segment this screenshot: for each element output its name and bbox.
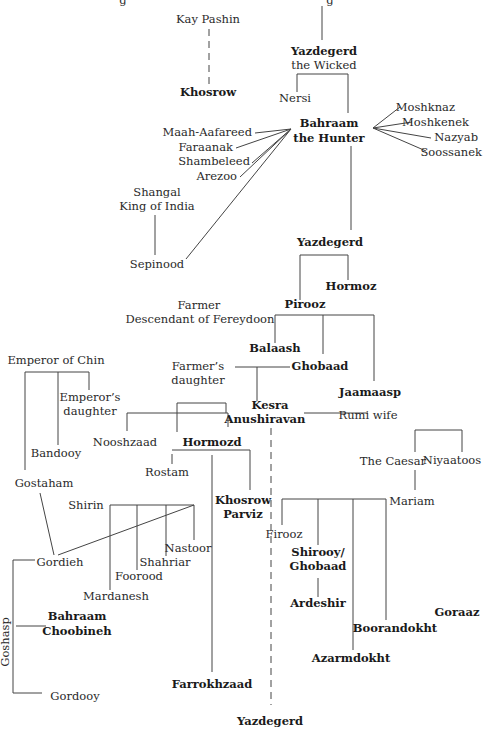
person-label-kesra: Kesra xyxy=(251,398,289,412)
person-label-khosrow-parviz-2: Parviz xyxy=(223,507,263,521)
person-label-ghobaad: Ghobaad xyxy=(292,359,349,373)
connector-line xyxy=(25,372,89,390)
person-label-moshkenek: Moshkenek xyxy=(402,115,470,129)
person-label-firooz: Firooz xyxy=(265,527,302,541)
person-label-goshasp: Goshasp xyxy=(0,617,12,667)
person-label-farrokhzaad: Farrokhzaad xyxy=(172,677,253,691)
person-label-gordieh: Gordieh xyxy=(37,555,84,569)
person-label-shahriar: Shahriar xyxy=(139,555,191,569)
person-label-the-caesar: The Caesar xyxy=(360,454,427,468)
person-label-shangal-title: King of India xyxy=(119,199,195,213)
person-label-balaash: Balaash xyxy=(249,341,301,355)
person-label-gostaham: Gostaham xyxy=(15,476,74,490)
person-label-emperors-daughter: Emperor’s xyxy=(60,390,121,404)
person-label-goraaz: Goraaz xyxy=(435,605,480,619)
person-label-gordooy: Gordooy xyxy=(50,689,100,703)
person-label-hormoz: Hormoz xyxy=(326,279,377,293)
person-label-farmer: Farmer xyxy=(178,298,221,312)
person-label-bahraam-choobineh: Bahraam xyxy=(48,609,107,623)
connector-line xyxy=(177,403,226,432)
person-label-moshknaz: Moshknaz xyxy=(396,100,455,114)
person-label-bahraam-hunter-epithet: the Hunter xyxy=(293,131,365,145)
person-label-kesra-2: Anushiravan xyxy=(224,412,306,426)
person-label-arezoo: Arezoo xyxy=(195,169,237,183)
person-label-foorood: Foorood xyxy=(115,569,164,583)
person-label-yazdegerd-2: Yazdegerd xyxy=(296,235,363,249)
person-labels: ggKay PashinKhosrowYazdegerdthe WickedNe… xyxy=(0,0,483,728)
person-label-nooshzaad: Nooshzaad xyxy=(93,435,158,449)
person-label-yazdegerd-3: Yazdegerd xyxy=(236,714,303,728)
person-label-boorandokht: Boorandokht xyxy=(353,621,438,635)
person-label-cut-g2: g xyxy=(326,0,334,7)
person-label-rostam: Rostam xyxy=(145,465,189,479)
connector-line xyxy=(373,128,431,138)
person-label-khosrow: Khosrow xyxy=(180,85,237,99)
person-label-farmer-desc: Descendant of Fereydoon xyxy=(126,312,275,326)
person-label-bahraam-hunter: Bahraam xyxy=(300,116,359,130)
connector-line xyxy=(110,505,194,540)
person-label-hormozd: Hormozd xyxy=(182,435,241,449)
person-label-maah-aafareed: Maah-Aafareed xyxy=(162,125,252,139)
person-label-bahraam-choobineh-2: Choobineh xyxy=(42,624,112,638)
person-label-cut-g1: g xyxy=(119,0,127,7)
person-label-emperor-chin: Emperor of Chin xyxy=(7,353,105,367)
person-label-bandooy: Bandooy xyxy=(31,446,82,460)
person-label-niyaatoos: Niyaatoos xyxy=(423,453,481,467)
person-label-shirooy: Shirooy/ xyxy=(291,545,345,559)
person-label-shirooy-2: Ghobaad xyxy=(290,559,347,573)
person-label-mariam: Mariam xyxy=(389,494,435,508)
person-label-jaamaasp: Jaamaasp xyxy=(338,385,401,399)
person-label-kay-pashin: Kay Pashin xyxy=(176,12,241,26)
person-label-sepinood: Sepinood xyxy=(130,257,185,271)
connector-line xyxy=(300,255,348,300)
person-label-nastoor: Nastoor xyxy=(165,541,212,555)
person-label-ardeshir: Ardeshir xyxy=(289,596,347,610)
person-label-shambeleed: Shambeleed xyxy=(178,154,251,168)
person-label-azarmdokht: Azarmdokht xyxy=(311,651,391,665)
connector-line xyxy=(40,493,54,555)
person-label-shangal: Shangal xyxy=(133,185,181,199)
genealogy-tree-diagram: ggKay PashinKhosrowYazdegerdthe WickedNe… xyxy=(0,0,493,734)
connector-line xyxy=(373,128,426,151)
person-label-farmers-daughter-2: daughter xyxy=(171,373,225,387)
person-label-shirin: Shirin xyxy=(68,498,104,512)
person-label-nersi: Nersi xyxy=(279,91,311,105)
person-label-nazyab: Nazyab xyxy=(434,130,478,144)
person-label-emperors-daughter-2: daughter xyxy=(63,404,117,418)
connector-line xyxy=(415,430,462,452)
person-label-farmers-daughter: Farmer’s xyxy=(172,359,224,373)
person-label-soossanek: Soossanek xyxy=(420,145,483,159)
person-label-pirooz: Pirooz xyxy=(285,297,326,311)
person-label-mardanesh: Mardanesh xyxy=(83,589,149,603)
person-label-yazdegerd-wicked-epithet: the Wicked xyxy=(291,58,357,72)
person-label-khosrow-parviz: Khosrow xyxy=(215,493,272,507)
person-label-rumi-wife: Rumi wife xyxy=(339,408,398,422)
person-label-yazdegerd-wicked: Yazdegerd xyxy=(290,44,357,58)
person-label-faraanak: Faraanak xyxy=(179,140,235,154)
